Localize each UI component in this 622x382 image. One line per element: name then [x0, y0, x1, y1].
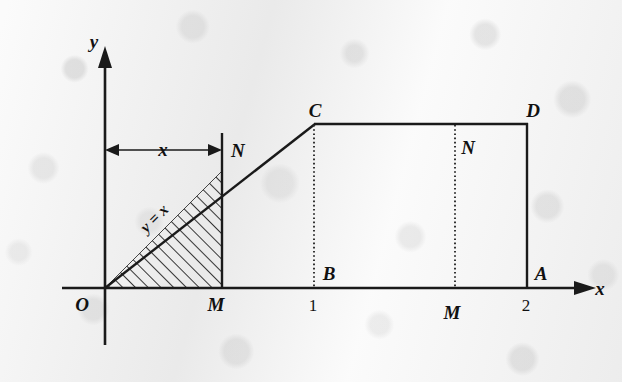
label-D: D — [525, 100, 540, 121]
label-C: C — [309, 100, 322, 121]
dimension-arrowhead-right — [208, 144, 222, 156]
shaded-triangle-region — [105, 171, 222, 288]
y-axis-arrowhead — [98, 46, 112, 68]
x-axis-arrowhead — [574, 281, 596, 295]
origin-label: O — [75, 294, 89, 315]
dimension-arrowhead-left — [105, 144, 119, 156]
label-N-right: N — [460, 137, 476, 158]
tick-label-2: 2 — [522, 296, 531, 315]
x-axis-label: x — [594, 278, 605, 299]
geometry-diagram: y x O N M C D B A N M 1 2 x y = x — [0, 0, 622, 382]
label-N-left: N — [230, 140, 246, 161]
tick-label-1: 1 — [309, 296, 318, 315]
rectangle-BCDA — [314, 123, 528, 289]
label-A: A — [534, 263, 548, 284]
label-B: B — [322, 263, 336, 284]
figure-canvas: y x O N M C D B A N M 1 2 x y = x — [0, 0, 622, 382]
y-axis-label: y — [88, 31, 99, 52]
label-M-right: M — [443, 302, 462, 323]
dimension-label-x: x — [157, 139, 168, 160]
y-axis — [98, 46, 112, 345]
label-M-left: M — [207, 294, 226, 315]
